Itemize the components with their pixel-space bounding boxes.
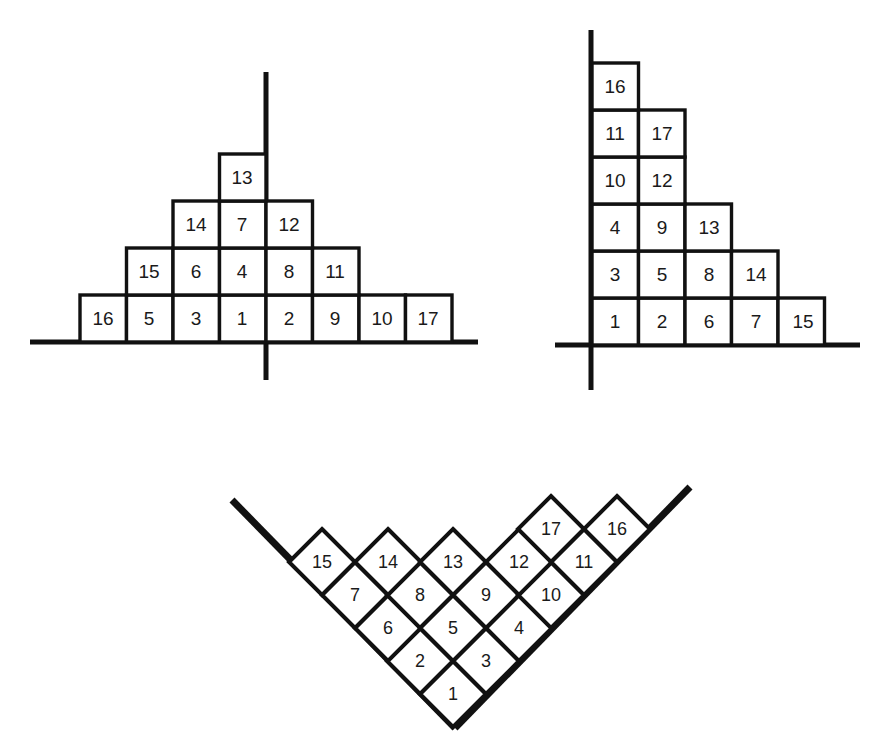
tile-label: 3 — [481, 651, 491, 671]
tile-label: 1 — [448, 684, 458, 704]
tile-label: 7 — [237, 214, 248, 235]
panel-diamond: 1236547891015141312111716 — [232, 487, 690, 728]
panel-pyramid: 1653129101715648111471213 — [30, 72, 478, 380]
tile-label: 12 — [651, 170, 672, 191]
figure-canvas: 1653129101715648111471213 — [0, 0, 880, 742]
tile-label: 4 — [237, 261, 248, 282]
tile-label: 14 — [378, 552, 398, 572]
tile-label: 4 — [610, 217, 621, 238]
tile-label: 17 — [651, 123, 672, 144]
tile-label: 7 — [751, 311, 762, 332]
tile-label: 3 — [610, 264, 621, 285]
tile-label: 9 — [330, 308, 341, 329]
tile-label: 3 — [191, 308, 202, 329]
tile-label: 10 — [604, 170, 625, 191]
tile-label: 2 — [284, 308, 295, 329]
tile-label: 16 — [607, 519, 627, 539]
tile-label: 1 — [237, 308, 248, 329]
tile-label: 16 — [92, 308, 113, 329]
tile-label: 1 — [610, 311, 621, 332]
tile-label: 10 — [541, 585, 561, 605]
tile-label: 17 — [541, 519, 561, 539]
tile-label: 6 — [383, 618, 393, 638]
tile-label: 14 — [185, 214, 207, 235]
diamond-tiles — [289, 496, 650, 727]
staircase-tiles — [592, 63, 825, 345]
tile-label: 5 — [448, 618, 458, 638]
tile-label: 17 — [417, 308, 438, 329]
tile-label: 8 — [284, 261, 295, 282]
tile-label: 11 — [325, 261, 345, 282]
tile-label: 6 — [191, 261, 202, 282]
tile-label: 4 — [514, 618, 524, 638]
tile-label: 11 — [575, 552, 594, 572]
tile-label: 6 — [704, 311, 715, 332]
tile-label: 15 — [312, 552, 332, 572]
tile-label: 13 — [698, 217, 719, 238]
tile-label: 9 — [481, 585, 491, 605]
tile-label: 5 — [144, 308, 155, 329]
tile-label: 16 — [604, 76, 625, 97]
tile-label: 13 — [443, 552, 463, 572]
tile-label: 8 — [704, 264, 715, 285]
tile-label: 8 — [415, 585, 425, 605]
tile-label: 12 — [509, 552, 529, 572]
pyramid-tiles — [80, 154, 452, 342]
panel-staircase: 1267153581449131012111716 — [555, 30, 860, 390]
tile-label: 9 — [657, 217, 668, 238]
three-panel-tiling-figure: 1653129101715648111471213 — [0, 0, 880, 742]
tile-label: 12 — [278, 214, 299, 235]
tile-label: 14 — [745, 264, 767, 285]
tile-label: 11 — [605, 123, 625, 144]
tile-label: 13 — [231, 167, 252, 188]
tile-label: 15 — [138, 261, 159, 282]
tile-label: 7 — [350, 585, 360, 605]
tile-label: 15 — [792, 311, 813, 332]
tile-label: 2 — [415, 651, 425, 671]
tile-label: 10 — [371, 308, 392, 329]
tile-label: 5 — [657, 264, 668, 285]
tile-label: 2 — [657, 311, 668, 332]
